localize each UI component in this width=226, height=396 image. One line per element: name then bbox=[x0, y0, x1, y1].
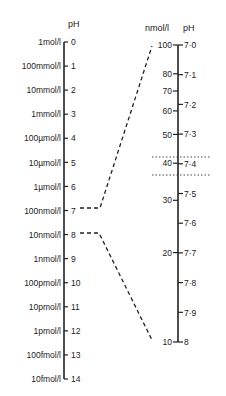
right-conc-header: nmol/l bbox=[145, 23, 169, 33]
right-ph-label: 7·8 bbox=[184, 278, 197, 288]
right-ph-label: 7·5 bbox=[184, 189, 197, 199]
right-ph-label: 7·3 bbox=[184, 129, 197, 139]
ph-label: 5 bbox=[71, 158, 76, 168]
lower-connector-dashed-line bbox=[80, 233, 152, 340]
ph-label: 4 bbox=[71, 133, 76, 143]
right-ph-label: 7·9 bbox=[184, 308, 197, 318]
right-conc-label: 100 bbox=[158, 40, 172, 50]
concentration-label: 100mmol/l bbox=[22, 61, 61, 71]
ph-label: 11 bbox=[71, 302, 80, 312]
right-ph-label: 7·6 bbox=[184, 218, 197, 228]
right-conc-label: 50 bbox=[163, 130, 173, 140]
concentration-label: 100nmol/l bbox=[24, 206, 61, 216]
right-conc-label: 40 bbox=[163, 158, 173, 168]
ph-label: 12 bbox=[71, 326, 81, 336]
ph-label: 0 bbox=[71, 37, 76, 47]
left-ph-header: pH bbox=[68, 19, 80, 29]
concentration-label: 100fmol/l bbox=[27, 350, 62, 360]
ph-label: 7 bbox=[71, 206, 76, 216]
concentration-label: 10fmol/l bbox=[31, 374, 61, 384]
right-conc-label: 20 bbox=[163, 248, 173, 258]
concentration-label: 100pmol/l bbox=[24, 278, 61, 288]
right-conc-label: 30 bbox=[163, 195, 173, 205]
right-conc-label: 60 bbox=[163, 106, 173, 116]
ph-label: 8 bbox=[71, 230, 76, 240]
right-conc-label: 80 bbox=[163, 69, 173, 79]
right-scale: nmol/l pH 7·07·17·27·37·47·57·67·77·87·9… bbox=[145, 23, 210, 347]
left-rows: 1mol/l0100mmol/l110mmol/l21mmol/l3100µmo… bbox=[22, 37, 81, 384]
concentration-label: 1mol/l bbox=[38, 37, 61, 47]
ph-label: 6 bbox=[71, 182, 76, 192]
right-conc-ticks: 1008070605040302010 bbox=[158, 40, 178, 347]
right-ph-label: 7·0 bbox=[184, 40, 197, 50]
connector-lines bbox=[80, 46, 152, 340]
right-ph-label: 7·1 bbox=[184, 70, 197, 80]
ph-label: 2 bbox=[71, 85, 76, 95]
ph-label: 1 bbox=[71, 61, 76, 71]
right-conc-label: 70 bbox=[163, 86, 173, 96]
concentration-label: 10µmol/l bbox=[29, 158, 61, 168]
ph-label: 14 bbox=[71, 374, 81, 384]
right-conc-label: 10 bbox=[163, 337, 173, 347]
concentration-label: 100µmol/l bbox=[24, 133, 61, 143]
upper-connector-dashed-line bbox=[80, 46, 152, 208]
ph-scale-diagram: pH 1mol/l0100mmol/l110mmol/l21mmol/l3100… bbox=[0, 0, 226, 396]
concentration-label: 1pmol/l bbox=[34, 326, 62, 336]
right-ph-label: 7·2 bbox=[184, 100, 197, 110]
right-ph-label: 7·7 bbox=[184, 248, 197, 258]
right-ph-ticks: 7·07·17·27·37·47·57·67·77·87·98 bbox=[178, 40, 197, 347]
ph-label: 3 bbox=[71, 109, 76, 119]
ph-label: 13 bbox=[71, 350, 81, 360]
concentration-label: 10pmol/l bbox=[29, 302, 61, 312]
right-ph-label: 8 bbox=[184, 337, 189, 347]
concentration-label: 10mmol/l bbox=[27, 85, 62, 95]
ph-label: 10 bbox=[71, 278, 81, 288]
concentration-label: 1µmol/l bbox=[33, 182, 61, 192]
right-ph-label: 7·4 bbox=[184, 159, 197, 169]
concentration-label: 1mmol/l bbox=[31, 109, 61, 119]
concentration-label: 1nmol/l bbox=[34, 254, 62, 264]
right-ph-header: pH bbox=[183, 23, 195, 33]
concentration-label: 10nmol/l bbox=[29, 230, 61, 240]
ph-label: 9 bbox=[71, 254, 76, 264]
left-scale: pH 1mol/l0100mmol/l110mmol/l21mmol/l3100… bbox=[22, 19, 81, 384]
